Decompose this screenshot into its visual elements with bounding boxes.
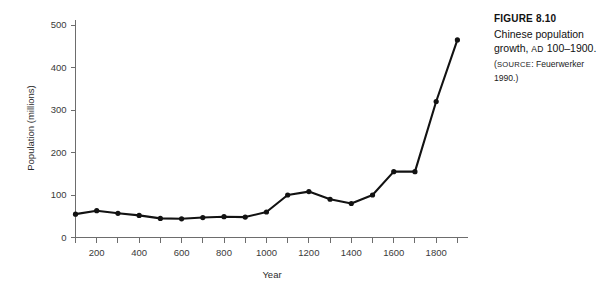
y-axis-ticks: 0100200300400500 bbox=[51, 19, 76, 243]
population-line bbox=[76, 40, 458, 219]
x-tick-label: 200 bbox=[89, 247, 105, 258]
caption-era-label: AD bbox=[531, 44, 543, 54]
data-point-marker bbox=[327, 197, 332, 202]
figure-caption: FIGURE 8.10 Chinese population growth, A… bbox=[494, 12, 606, 84]
x-tick-label: 400 bbox=[131, 247, 147, 258]
caption-figure-number: FIGURE 8.10 bbox=[494, 12, 606, 26]
data-point-marker bbox=[115, 211, 120, 216]
data-point-marker bbox=[455, 37, 460, 42]
y-tick-label: 400 bbox=[51, 62, 67, 73]
data-point-marker bbox=[285, 192, 290, 197]
data-point-marker bbox=[179, 216, 184, 221]
data-point-marker bbox=[94, 208, 99, 213]
y-tick-label: 0 bbox=[61, 232, 66, 243]
data-point-marker bbox=[306, 189, 311, 194]
y-tick-label: 200 bbox=[51, 147, 67, 158]
data-point-marker bbox=[434, 99, 439, 104]
y-axis-title: Population (millions) bbox=[25, 85, 36, 171]
chart-area: 0100200300400500 20040060080010001200140… bbox=[0, 0, 480, 303]
figure-container: 0100200300400500 20040060080010001200140… bbox=[0, 0, 610, 303]
caption-source-label: SOURCE bbox=[497, 60, 531, 69]
data-point-marker bbox=[221, 214, 226, 219]
x-axis-ticks: 20040060080010001200140016001800 bbox=[76, 238, 458, 258]
y-tick-label: 300 bbox=[51, 104, 67, 115]
data-point-marker bbox=[370, 192, 375, 197]
x-axis-title: Year bbox=[262, 269, 281, 280]
axes bbox=[76, 20, 469, 238]
data-point-marker bbox=[158, 216, 163, 221]
data-point-marker bbox=[200, 215, 205, 220]
x-tick-label: 1400 bbox=[341, 247, 362, 258]
data-point-marker bbox=[391, 169, 396, 174]
data-point-marker bbox=[73, 212, 78, 217]
data-series bbox=[73, 37, 460, 221]
caption-title-text-2: 100–1900. bbox=[544, 42, 597, 54]
population-markers bbox=[73, 37, 460, 221]
caption-source: (SOURCE: Feuerwerker 1990.) bbox=[494, 58, 606, 84]
y-tick-label: 100 bbox=[51, 189, 67, 200]
x-tick-label: 1800 bbox=[426, 247, 447, 258]
x-tick-label: 1200 bbox=[298, 247, 319, 258]
caption-title: Chinese population growth, AD 100–1900. bbox=[494, 27, 606, 56]
data-point-marker bbox=[349, 201, 354, 206]
data-point-marker bbox=[243, 215, 248, 220]
data-point-marker bbox=[137, 213, 142, 218]
data-point-marker bbox=[412, 169, 417, 174]
x-tick-label: 1600 bbox=[383, 247, 404, 258]
y-tick-label: 500 bbox=[51, 19, 67, 30]
x-tick-label: 600 bbox=[174, 247, 190, 258]
x-tick-label: 1000 bbox=[256, 247, 277, 258]
x-tick-label: 800 bbox=[216, 247, 232, 258]
population-line-chart: 0100200300400500 20040060080010001200140… bbox=[0, 0, 480, 303]
data-point-marker bbox=[264, 209, 269, 214]
